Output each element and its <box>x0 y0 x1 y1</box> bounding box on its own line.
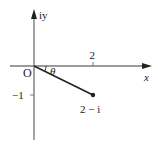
x-axis-arrow-icon <box>142 63 152 69</box>
x-axis-label: x <box>143 71 149 83</box>
point-2-minus-i <box>91 93 95 97</box>
angle-label: θ <box>50 65 56 77</box>
point-label: 2 − i <box>80 103 100 115</box>
x-tick-label: 2 <box>90 49 96 61</box>
segment-origin-to-point <box>34 66 93 95</box>
y-tick-label: −1 <box>12 89 24 101</box>
y-axis-arrow-icon <box>31 9 37 19</box>
origin-label: O <box>23 66 32 80</box>
y-axis-label: iy <box>39 9 48 21</box>
argand-diagram: iy x O 2 −1 θ 2 − i <box>0 0 158 147</box>
angle-arc <box>45 66 46 71</box>
